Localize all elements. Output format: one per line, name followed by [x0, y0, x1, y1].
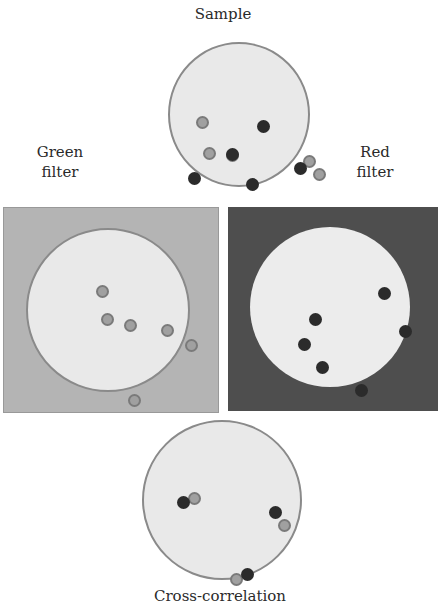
red-particle: [241, 568, 254, 581]
red-filter-label: Red filter: [335, 142, 415, 182]
red-particle: [399, 325, 412, 338]
green-particle: [101, 313, 114, 326]
red-particle: [269, 506, 282, 519]
green-filter-label-line1: Green: [20, 142, 100, 162]
red-particle: [177, 496, 190, 509]
red-particle: [316, 361, 329, 374]
sample-dish: [168, 42, 310, 187]
red-particle: [294, 162, 307, 175]
green-particle: [124, 319, 137, 332]
green-particle: [278, 519, 291, 532]
cross-correlation-label: Cross-correlation: [130, 586, 310, 606]
red-particle: [298, 338, 311, 351]
green-particle: [185, 339, 198, 352]
red-filter-dish: [250, 227, 410, 387]
red-particle: [226, 148, 239, 161]
green-particle: [161, 324, 174, 337]
red-filter-panel: [228, 207, 438, 411]
green-particle: [313, 168, 326, 181]
red-particle: [188, 172, 201, 185]
sample-label: Sample: [168, 4, 278, 24]
red-particle: [257, 120, 270, 133]
green-filter-label-line2: filter: [20, 162, 100, 182]
red-particle: [246, 178, 259, 191]
red-particle: [355, 384, 368, 397]
green-filter-label: Green filter: [20, 142, 100, 182]
green-particle: [196, 116, 209, 129]
green-particle: [128, 394, 141, 407]
cross-correlation-dish: [142, 420, 302, 580]
red-filter-label-line2: filter: [335, 162, 415, 182]
green-particle: [203, 147, 216, 160]
red-filter-label-line1: Red: [335, 142, 415, 162]
green-filter-panel: [3, 207, 219, 413]
green-particle: [96, 285, 109, 298]
red-particle: [378, 287, 391, 300]
green-filter-dish: [26, 228, 190, 392]
red-particle: [309, 313, 322, 326]
